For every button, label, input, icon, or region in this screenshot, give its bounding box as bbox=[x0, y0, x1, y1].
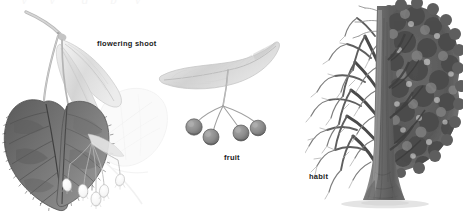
ground-shadow-core bbox=[361, 200, 409, 205]
label-habit: habit bbox=[309, 172, 328, 181]
nutlet bbox=[233, 125, 249, 141]
label-fruit: fruit bbox=[224, 153, 240, 162]
nutlet bbox=[186, 119, 202, 135]
fruit-bract bbox=[159, 42, 279, 89]
illustration-flowering-shoot bbox=[0, 4, 175, 214]
summer-canopy bbox=[383, 0, 463, 178]
flowering-shoot-drawing bbox=[0, 4, 175, 214]
nutlet bbox=[203, 129, 219, 145]
fruit-nutlets bbox=[186, 119, 266, 145]
habit-drawing bbox=[305, 0, 463, 214]
illustration-habit bbox=[305, 0, 463, 214]
nutlet bbox=[250, 120, 266, 136]
botanical-plate: y y g p y bbox=[0, 0, 463, 214]
label-flowering-shoot: flowering shoot bbox=[97, 39, 157, 48]
